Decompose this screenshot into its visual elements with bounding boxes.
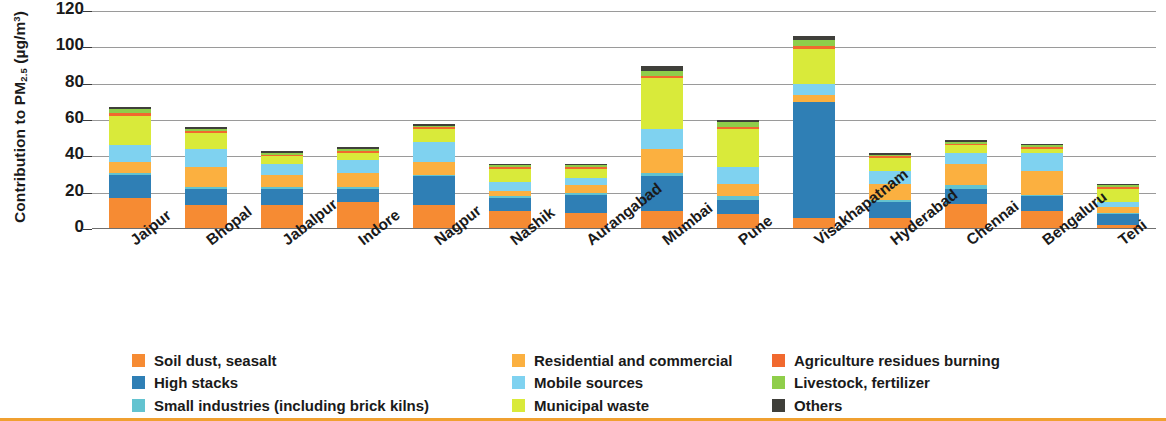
- bar-slot: [472, 11, 548, 229]
- legend-swatch-icon: [132, 399, 145, 412]
- legend-swatch-icon: [512, 376, 525, 389]
- bar-segment: [413, 176, 456, 205]
- legend-item[interactable]: Livestock, fertilizer: [772, 372, 1102, 395]
- bar-slot: [548, 11, 624, 229]
- stacked-bar[interactable]: [185, 127, 228, 229]
- legend-label: Mobile sources: [534, 374, 643, 391]
- legend-swatch-icon: [772, 399, 785, 412]
- y-axis-tick: [83, 47, 92, 48]
- legend-item[interactable]: Others: [772, 394, 1102, 417]
- y-axis-tick-label: 60: [24, 108, 84, 128]
- bar-segment: [261, 156, 304, 163]
- y-axis-tick-label: 0: [24, 217, 84, 237]
- bar-group: [92, 11, 1156, 229]
- bar-segment: [717, 184, 760, 197]
- bar-segment: [869, 158, 912, 171]
- legend-item[interactable]: Residential and commercial: [512, 349, 772, 372]
- bar-segment: [717, 200, 760, 215]
- bar-segment: [109, 116, 152, 145]
- stacked-bar[interactable]: [1021, 144, 1064, 229]
- y-axis-tick: [83, 193, 92, 194]
- bar-segment: [337, 189, 380, 202]
- legend-swatch-icon: [512, 399, 525, 412]
- y-axis-tick-label: 120: [24, 0, 84, 19]
- stacked-bar[interactable]: [337, 147, 380, 229]
- legend-item[interactable]: Mobile sources: [512, 372, 772, 395]
- stacked-bar[interactable]: [793, 36, 836, 229]
- bar-segment: [565, 178, 608, 185]
- legend-label: Soil dust, seasalt: [154, 352, 277, 369]
- y-axis-tick: [83, 229, 92, 230]
- y-axis-tick: [83, 156, 92, 157]
- bar-segment: [337, 160, 380, 173]
- legend-swatch-icon: [132, 354, 145, 367]
- bar-slot: [700, 11, 776, 229]
- bar-segment: [565, 195, 608, 213]
- legend-item[interactable]: Soil dust, seasalt: [132, 349, 512, 372]
- legend-swatch-icon: [132, 376, 145, 389]
- bar-segment: [793, 49, 836, 84]
- legend-label: Livestock, fertilizer: [794, 374, 930, 391]
- bar-segment: [945, 145, 988, 152]
- legend-item[interactable]: Agriculture residues burning: [772, 349, 1102, 372]
- stacked-bar[interactable]: [565, 164, 608, 229]
- bar-segment: [793, 102, 836, 218]
- bar-slot: [396, 11, 472, 229]
- bar-segment: [717, 167, 760, 183]
- bar-slot: [92, 11, 168, 229]
- bar-segment: [565, 185, 608, 192]
- y-axis-tick-label: 20: [24, 181, 84, 201]
- legend-label: Small industries (including brick kilns): [154, 397, 429, 414]
- y-axis-tick-label: 80: [24, 72, 84, 92]
- legend-item[interactable]: Small industries (including brick kilns): [132, 394, 512, 417]
- bar-segment: [337, 173, 380, 188]
- bar-segment: [641, 78, 684, 129]
- bar-segment: [413, 129, 456, 142]
- bar-segment: [565, 169, 608, 178]
- bar-segment: [413, 162, 456, 175]
- bar-segment: [413, 142, 456, 162]
- stacked-bar[interactable]: [413, 124, 456, 229]
- legend-item[interactable]: High stacks: [132, 372, 512, 395]
- y-axis-title-superscript: 3: [11, 16, 22, 21]
- bar-segment: [945, 153, 988, 164]
- legend-swatch-icon: [772, 354, 785, 367]
- bar-segment: [261, 189, 304, 205]
- bar-segment: [109, 145, 152, 161]
- bar-slot: [1004, 11, 1080, 229]
- legend-label: Municipal waste: [534, 397, 649, 414]
- y-axis-tick: [83, 84, 92, 85]
- bar-segment: [489, 182, 532, 191]
- bar-segment: [185, 133, 228, 149]
- y-axis-tick-label: 40: [24, 144, 84, 164]
- bar-segment: [1021, 196, 1064, 211]
- bar-segment: [641, 129, 684, 149]
- plot-area: 020406080100120: [92, 11, 1156, 229]
- legend: Soil dust, seasaltHigh stacksSmall indus…: [132, 349, 1142, 417]
- y-axis-tick: [83, 120, 92, 121]
- legend-label: Agriculture residues burning: [794, 352, 1000, 369]
- bar-segment: [261, 175, 304, 188]
- stacked-bar[interactable]: [261, 151, 304, 229]
- y-axis-tick: [83, 11, 92, 12]
- bar-segment: [793, 84, 836, 95]
- stacked-bar[interactable]: [489, 164, 532, 229]
- x-axis-labels: JaipurBhopalJabalpurIndoreNagpurNashikAu…: [92, 229, 1156, 339]
- stacked-bar[interactable]: [717, 120, 760, 229]
- bar-segment: [489, 198, 532, 211]
- legend-label: High stacks: [154, 374, 238, 391]
- bar-segment: [185, 149, 228, 167]
- legend-swatch-icon: [512, 354, 525, 367]
- bar-segment: [185, 189, 228, 205]
- bar-slot: [168, 11, 244, 229]
- legend-label: Others: [794, 397, 842, 414]
- legend-item[interactable]: Municipal waste: [512, 394, 772, 417]
- bar-segment: [641, 149, 684, 173]
- stacked-bar[interactable]: [109, 107, 152, 229]
- bar-segment: [185, 167, 228, 187]
- bar-segment: [261, 164, 304, 175]
- bar-segment: [793, 95, 836, 102]
- bar-slot: [776, 11, 852, 229]
- stacked-bar[interactable]: [945, 140, 988, 229]
- bar-segment: [489, 169, 532, 182]
